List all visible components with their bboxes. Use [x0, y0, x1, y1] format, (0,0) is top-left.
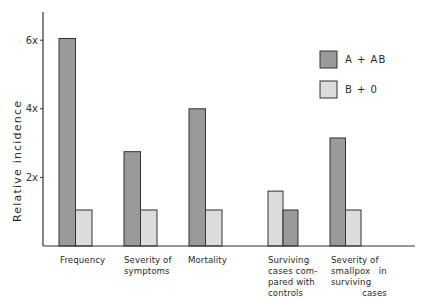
legend-swatch-a-ab — [320, 51, 337, 68]
bars-group — [59, 38, 361, 246]
legend-swatch-b-0 — [320, 81, 337, 98]
bar-b-0 — [346, 210, 362, 246]
bar-a-ab — [330, 138, 346, 246]
legend-label-a-ab: A + AB — [345, 54, 386, 65]
category-label-mortality: Mortality — [188, 255, 227, 266]
y-tick-label: 2x — [26, 172, 38, 183]
bar-b-0 — [76, 210, 93, 246]
y-ticks: 2x4x6x — [26, 35, 43, 183]
bar-a-ab — [189, 109, 206, 246]
bar-a-ab — [124, 152, 141, 246]
category-label-severity-smallpox: Severity of smallpox in surviving cases — [331, 255, 387, 299]
bar-a-ab — [59, 38, 76, 246]
bar-b-0 — [206, 210, 223, 246]
category-label-frequency: Frequency — [60, 255, 105, 266]
y-axis-label: Relative incidence — [11, 100, 24, 222]
bar-b-0 — [268, 191, 283, 246]
category-label-surviving-cases: Surviving cases com- pared with controls — [268, 255, 317, 299]
y-tick-label: 4x — [26, 103, 38, 114]
category-label-severity-symptoms: Severity of symptoms — [124, 255, 172, 277]
bar-b-0 — [141, 210, 158, 246]
y-tick-label: 6x — [26, 35, 38, 46]
bar-a-ab — [283, 210, 298, 246]
legend-label-b-0: B + 0 — [345, 84, 378, 95]
